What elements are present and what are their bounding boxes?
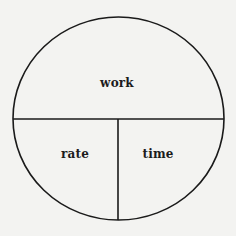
rate-label: rate xyxy=(61,147,89,161)
work-label: work xyxy=(100,76,134,90)
circle-diagram xyxy=(0,0,236,236)
diagram-canvas: work rate time xyxy=(0,0,236,236)
time-label: time xyxy=(142,147,173,161)
